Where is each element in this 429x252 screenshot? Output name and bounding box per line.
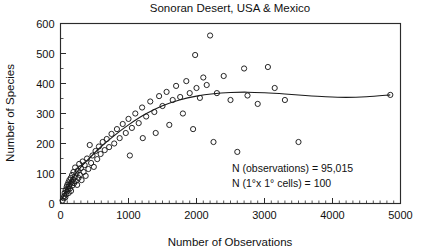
data-point bbox=[208, 33, 213, 38]
plot-frame bbox=[61, 24, 401, 204]
data-point bbox=[282, 97, 287, 102]
y-tick-label: 0 bbox=[48, 198, 54, 210]
data-point bbox=[204, 82, 209, 87]
data-point bbox=[180, 111, 185, 116]
data-point bbox=[127, 153, 132, 158]
data-point bbox=[174, 83, 179, 88]
data-point bbox=[153, 130, 158, 135]
data-point bbox=[235, 149, 240, 154]
data-point bbox=[93, 148, 98, 153]
data-point bbox=[87, 142, 92, 147]
data-point bbox=[193, 52, 198, 57]
y-tick-label: 500 bbox=[36, 48, 54, 60]
data-point bbox=[187, 91, 192, 96]
minor-ticks bbox=[61, 24, 401, 204]
data-point bbox=[228, 97, 233, 102]
data-point bbox=[120, 121, 125, 126]
data-point bbox=[123, 130, 128, 135]
data-point bbox=[242, 66, 247, 71]
major-ticks bbox=[61, 24, 401, 204]
annotation-observations: N (observations) = 95,015 bbox=[232, 162, 353, 174]
scatter-plot: Sonoran Desert, USA & Mexico Number of S… bbox=[0, 0, 429, 252]
x-tick-label: 0 bbox=[57, 209, 63, 221]
data-points bbox=[60, 33, 393, 203]
data-point bbox=[201, 75, 206, 80]
y-tick-label: 200 bbox=[36, 138, 54, 150]
data-point bbox=[133, 111, 138, 116]
data-point bbox=[126, 116, 131, 121]
data-point bbox=[265, 64, 270, 69]
data-point bbox=[86, 166, 91, 171]
data-point bbox=[211, 139, 216, 144]
data-point bbox=[95, 157, 100, 162]
chart-title: Sonoran Desert, USA & Mexico bbox=[150, 2, 310, 14]
tick-labels: 0100020003000400050000100200300400500600 bbox=[36, 18, 413, 221]
data-point bbox=[112, 141, 117, 146]
y-axis-label: Number of Species bbox=[4, 64, 16, 162]
y-tick-label: 400 bbox=[36, 78, 54, 90]
x-tick-label: 5000 bbox=[388, 209, 412, 221]
annotation-cells: N (1°x 1° cells) = 100 bbox=[232, 177, 331, 189]
data-point bbox=[194, 85, 199, 90]
data-point bbox=[114, 127, 119, 132]
x-tick-label: 1000 bbox=[116, 209, 140, 221]
data-point bbox=[140, 136, 145, 141]
data-point bbox=[272, 85, 277, 90]
y-tick-label: 300 bbox=[36, 108, 54, 120]
y-tick-label: 100 bbox=[36, 168, 54, 180]
data-point bbox=[296, 139, 301, 144]
data-point bbox=[136, 121, 141, 126]
data-point bbox=[157, 94, 162, 99]
x-tick-label: 3000 bbox=[252, 209, 276, 221]
y-tick-label: 600 bbox=[36, 18, 54, 30]
data-point bbox=[167, 122, 172, 127]
x-axis-label: Number of Observations bbox=[168, 236, 293, 248]
data-point bbox=[184, 79, 189, 84]
data-point bbox=[117, 136, 122, 141]
x-tick-label: 2000 bbox=[184, 209, 208, 221]
data-point bbox=[129, 125, 134, 130]
data-point bbox=[140, 105, 145, 110]
data-point bbox=[148, 99, 153, 104]
data-point bbox=[221, 73, 226, 78]
data-point bbox=[164, 89, 169, 94]
data-point bbox=[191, 127, 196, 132]
data-point bbox=[245, 93, 250, 98]
x-tick-label: 4000 bbox=[320, 209, 344, 221]
data-point bbox=[255, 101, 260, 106]
data-point bbox=[107, 145, 112, 150]
data-point bbox=[91, 164, 96, 169]
chart-figure: Sonoran Desert, USA & Mexico Number of S… bbox=[0, 0, 429, 252]
